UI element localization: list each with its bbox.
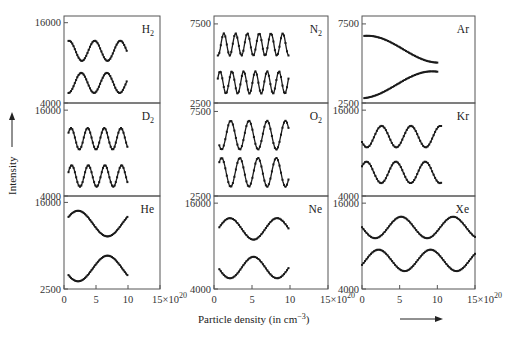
data-point <box>220 44 222 46</box>
data-point <box>419 140 421 142</box>
data-point <box>242 71 244 73</box>
data-point <box>70 41 72 43</box>
data-point <box>272 163 274 165</box>
data-point <box>123 167 125 169</box>
data-point <box>288 179 290 181</box>
data-point <box>73 132 75 134</box>
data-point <box>390 258 392 260</box>
data-point <box>276 149 278 151</box>
data-point <box>121 91 123 93</box>
data-point <box>403 135 405 137</box>
series-curve-upper <box>362 217 475 238</box>
y-tick-label: 7500 <box>190 18 211 29</box>
data-point <box>259 235 261 237</box>
data-point <box>268 223 270 225</box>
x-axis-title: Particle density (in cm−3) <box>198 312 443 326</box>
data-point <box>467 228 469 230</box>
data-point <box>259 90 261 92</box>
data-point <box>232 182 234 184</box>
data-point <box>398 163 400 165</box>
series-curve-lower <box>364 71 437 98</box>
data-point <box>428 164 430 166</box>
data-point <box>107 137 109 139</box>
data-point <box>245 180 247 182</box>
data-point <box>265 227 267 229</box>
data-point <box>361 226 363 228</box>
y-tick-label: 16000 <box>333 198 359 209</box>
panel-ar: 25007500Ar <box>338 16 475 109</box>
data-point <box>226 44 228 46</box>
data-point <box>96 148 98 150</box>
data-point <box>260 166 262 168</box>
data-point <box>411 223 413 225</box>
x-tick-label: 10 <box>123 294 134 305</box>
data-point <box>88 85 90 87</box>
data-point <box>109 58 111 60</box>
data-point <box>126 216 128 218</box>
data-point <box>280 37 282 39</box>
data-point <box>415 176 417 178</box>
data-point <box>71 128 73 130</box>
x-tick-label: 10 <box>432 294 443 305</box>
data-point <box>268 75 270 77</box>
data-point <box>100 176 102 178</box>
y-axis-arrow-icon <box>9 112 15 120</box>
data-point <box>232 72 234 74</box>
data-point <box>474 236 476 238</box>
data-point <box>416 173 418 175</box>
data-point <box>268 122 270 124</box>
data-point <box>74 48 76 50</box>
data-point <box>87 81 89 83</box>
data-point <box>97 42 99 44</box>
data-point <box>235 169 237 171</box>
data-point <box>239 269 241 271</box>
data-point <box>84 132 86 134</box>
data-point <box>238 45 240 47</box>
panel-n: 25007500N2 <box>190 16 328 109</box>
data-point <box>107 171 109 173</box>
data-point <box>112 81 114 83</box>
data-point <box>391 164 393 166</box>
data-point <box>253 54 255 56</box>
x-tick-label: 5 <box>249 294 254 305</box>
data-point <box>75 79 77 81</box>
data-point <box>248 186 250 188</box>
data-point <box>82 142 84 144</box>
data-point <box>244 73 246 75</box>
data-point <box>431 138 433 140</box>
data-point <box>271 170 273 172</box>
data-point <box>248 38 250 40</box>
y-axis-title: Intensity <box>6 112 18 195</box>
data-point <box>120 266 122 268</box>
y-tick-label: 16000 <box>35 17 61 28</box>
data-point <box>233 35 235 37</box>
data-point <box>241 160 243 162</box>
y-tick-label: 4000 <box>190 284 211 295</box>
data-point <box>414 227 416 229</box>
data-point <box>74 171 76 173</box>
gas-label: He <box>141 203 154 215</box>
data-point <box>230 185 232 187</box>
data-point <box>266 47 268 49</box>
data-point <box>239 226 241 228</box>
data-point <box>465 226 467 228</box>
data-point <box>400 142 402 144</box>
data-point <box>71 165 73 167</box>
data-point <box>244 232 246 234</box>
data-point <box>383 127 385 129</box>
data-point <box>279 46 281 48</box>
data-point <box>468 260 470 262</box>
data-point <box>279 71 281 73</box>
data-point <box>97 146 99 148</box>
panel-xe: 400016000051015×1020Xe <box>333 196 502 305</box>
y-tick-label: 2500 <box>40 284 61 295</box>
data-point <box>283 221 285 223</box>
data-point <box>406 179 408 181</box>
gas-label: D2 <box>142 110 154 125</box>
data-point <box>361 165 363 167</box>
data-point <box>242 230 244 232</box>
y-tick-label: 7500 <box>190 106 211 117</box>
data-point <box>265 73 267 75</box>
data-point <box>415 229 417 231</box>
y-tick-label: 16000 <box>333 105 359 116</box>
